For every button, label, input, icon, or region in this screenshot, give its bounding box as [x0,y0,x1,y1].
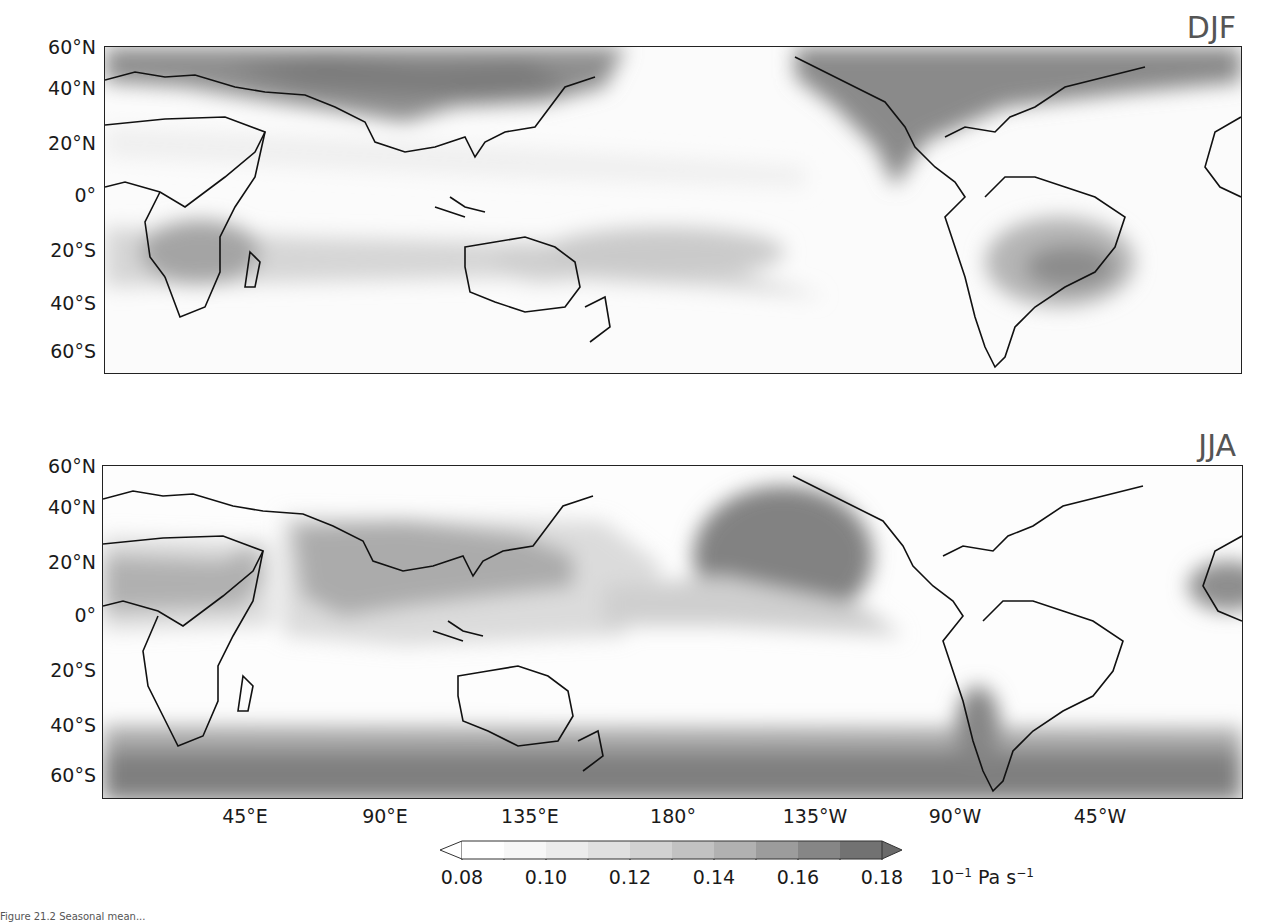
colorbar [440,840,902,860]
colorbar-tick: 0.12 [609,866,651,888]
lat-label: 40°N [4,496,96,518]
lat-label: 60°S [4,340,96,362]
colorbar-tick: 0.16 [777,866,819,888]
lat-label: 40°N [4,77,96,99]
colorbar-tick: 0.10 [525,866,567,888]
lat-label: 60°S [4,764,96,786]
colorbar-tick: 0.14 [693,866,735,888]
jja-map-field [103,466,1242,798]
lon-label: 90°W [929,805,981,827]
lon-label: 45°W [1074,805,1126,827]
colorbar-tick: 0.08 [441,866,483,888]
lat-label: 40°S [4,714,96,736]
colorbar-unit: 10−1 Pa s−1 [930,866,1034,888]
lat-label: 20°S [4,239,96,261]
unit-base: 10 [930,866,954,888]
unit-text: Pa s [972,866,1016,888]
unit-exponent-2: −1 [1016,866,1034,880]
lat-label: 60°N [4,455,96,477]
map-panel-djf [104,46,1242,374]
lon-label: 90°E [362,805,408,827]
season-label-jja: JJA [1198,428,1236,463]
djf-map-field [105,47,1241,373]
lon-label: 135°E [501,805,559,827]
season-label-djf: DJF [1187,10,1236,45]
figure-caption: Figure 21.2 Seasonal mean... [0,911,145,922]
unit-exponent: −1 [954,866,972,880]
lat-label: 40°S [4,292,96,314]
lon-label: 135°W [783,805,848,827]
lat-label: 20°N [4,551,96,573]
lat-label: 0° [4,184,96,206]
lat-label: 20°S [4,659,96,681]
lat-label: 60°N [4,36,96,58]
lon-label: 45°E [222,805,268,827]
lon-label: 180° [650,805,696,827]
colorbar-tick: 0.18 [861,866,903,888]
map-panel-jja [102,465,1243,799]
lat-label: 20°N [4,132,96,154]
lat-label: 0° [4,604,96,626]
